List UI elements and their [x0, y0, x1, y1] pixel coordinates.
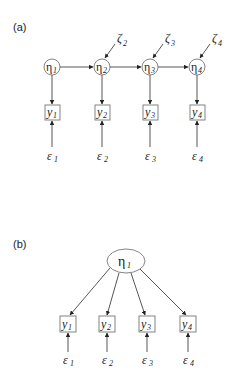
observed-y2: y 2	[95, 105, 110, 120]
svg-text:η: η	[144, 60, 150, 74]
error-eps3: ε 3	[145, 121, 156, 164]
svg-text:y: y	[100, 317, 107, 331]
svg-text:3: 3	[151, 155, 156, 164]
error-eps3: ε 3	[142, 333, 153, 368]
observed-y1: y 1	[60, 316, 76, 332]
svg-text:1: 1	[70, 359, 74, 368]
disturbance-zeta2: ζ 2	[105, 31, 127, 58]
svg-text:η: η	[191, 60, 197, 74]
svg-text:4: 4	[218, 39, 222, 48]
svg-text:1: 1	[53, 111, 57, 120]
svg-text:1: 1	[127, 261, 131, 270]
svg-text:3: 3	[146, 323, 151, 332]
svg-text:2: 2	[109, 359, 113, 368]
latent-eta3: η 3	[142, 59, 158, 75]
svg-text:4: 4	[199, 155, 203, 164]
svg-text:y: y	[61, 317, 68, 331]
svg-text:y: y	[140, 317, 147, 331]
observed-y4: y 4	[180, 316, 196, 332]
svg-text:ε: ε	[192, 149, 197, 163]
svg-text:η: η	[46, 60, 52, 74]
svg-text:3: 3	[148, 359, 153, 368]
svg-text:4: 4	[188, 323, 192, 332]
svg-text:4: 4	[198, 66, 202, 75]
latent-eta4: η 4	[189, 59, 205, 75]
svg-text:4: 4	[190, 359, 194, 368]
svg-text:1: 1	[54, 155, 58, 164]
svg-text:η: η	[96, 60, 102, 74]
svg-text:2: 2	[103, 111, 107, 120]
svg-text:ε: ε	[102, 353, 107, 367]
svg-text:y: y	[46, 105, 53, 119]
observed-y3: y 3	[143, 105, 158, 120]
error-eps4: ε 4	[192, 121, 203, 164]
svg-text:y: y	[96, 105, 103, 119]
error-eps1: ε 1	[63, 333, 74, 368]
panel-b-label: (b)	[13, 238, 26, 250]
svg-text:ε: ε	[97, 149, 102, 163]
loading-eta1-y2	[107, 273, 119, 315]
svg-text:2: 2	[123, 39, 127, 48]
loading-eta1-y4	[140, 269, 186, 315]
svg-text:ε: ε	[183, 353, 188, 367]
latent-eta1-factor: η 1	[107, 249, 145, 273]
svg-text:3: 3	[170, 39, 175, 48]
error-eps2: ε 2	[102, 333, 113, 368]
observed-y1: y 1	[45, 105, 60, 120]
loading-eta1-y1	[70, 268, 110, 315]
error-eps1: ε 1	[47, 121, 58, 164]
svg-text:ε: ε	[47, 149, 52, 163]
panel-a: (a) η 1 η 2 η 3 η 4 ζ 2	[13, 21, 222, 164]
observed-y2: y 2	[99, 316, 115, 332]
svg-text:1: 1	[68, 323, 72, 332]
sem-diagram: (a) η 1 η 2 η 3 η 4 ζ 2	[0, 0, 227, 376]
svg-text:ε: ε	[63, 353, 68, 367]
svg-text:ε: ε	[142, 353, 147, 367]
observed-y4: y 4	[190, 105, 205, 120]
latent-eta1: η 1	[44, 59, 60, 75]
observed-y3: y 3	[139, 316, 155, 332]
panel-a-label: (a)	[13, 21, 26, 33]
svg-text:η: η	[118, 254, 125, 269]
svg-text:1: 1	[53, 66, 57, 75]
svg-text:2: 2	[107, 323, 111, 332]
svg-text:4: 4	[198, 111, 202, 120]
svg-text:y: y	[191, 105, 198, 119]
panel-b: (b) η 1 y 1 y 2 y 3 y 4	[13, 238, 196, 368]
svg-text:y: y	[144, 105, 151, 119]
svg-text:y: y	[181, 317, 188, 331]
svg-text:3: 3	[150, 111, 155, 120]
error-eps2: ε 2	[97, 121, 108, 164]
loading-eta1-y3	[131, 273, 145, 315]
svg-text:2: 2	[104, 155, 108, 164]
disturbance-zeta3: ζ 3	[153, 31, 175, 58]
svg-text:3: 3	[150, 66, 155, 75]
svg-text:ε: ε	[145, 149, 150, 163]
error-eps4: ε 4	[183, 333, 194, 368]
latent-eta2: η 2	[94, 59, 110, 75]
svg-text:2: 2	[103, 66, 107, 75]
disturbance-zeta4: ζ 4	[200, 31, 222, 58]
